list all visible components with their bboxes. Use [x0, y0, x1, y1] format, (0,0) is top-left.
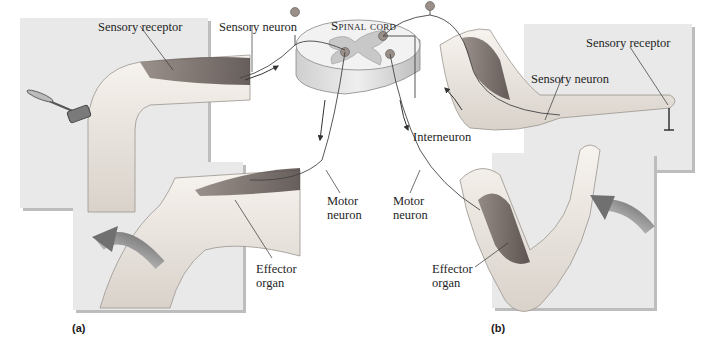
reflex-arc-illustration	[0, 0, 713, 348]
arm-b-response	[460, 145, 650, 311]
label-sensory-receptor-b: Sensory receptor	[586, 36, 670, 50]
part-label-a: (a)	[72, 322, 85, 334]
label-motor-neuron-a-line1: Motor	[327, 194, 362, 208]
label-motor-neuron-a-line2: neuron	[327, 208, 362, 222]
label-effector-organ-a-line2: organ	[256, 276, 297, 290]
reflex-hammer-icon	[26, 88, 91, 123]
label-motor-neuron-a: Motor neuron	[327, 194, 362, 222]
label-sensory-neuron-b: Sensory neuron	[531, 72, 609, 86]
label-effector-organ-b-line1: Effector	[432, 262, 473, 276]
label-effector-organ-a-line1: Effector	[256, 262, 297, 276]
label-effector-organ-a: Effector organ	[256, 262, 297, 290]
label-motor-neuron-b: Motor neuron	[393, 194, 428, 222]
label-motor-neuron-b-line1: Motor	[393, 194, 428, 208]
label-interneuron: Interneuron	[413, 130, 471, 144]
sensory-neuron-a-cell-body	[291, 8, 300, 17]
label-sensory-neuron-a: Sensory neuron	[219, 20, 297, 34]
label-sensory-receptor-a: Sensory receptor	[98, 20, 182, 34]
label-effector-organ-b-line2: organ	[432, 276, 473, 290]
label-motor-neuron-b-line2: neuron	[393, 208, 428, 222]
sensory-neuron-b-cell-body	[426, 2, 435, 11]
part-label-b: (b)	[491, 322, 505, 334]
label-spinal-cord: Spinal cord	[331, 19, 396, 33]
label-effector-organ-b: Effector organ	[432, 262, 473, 290]
